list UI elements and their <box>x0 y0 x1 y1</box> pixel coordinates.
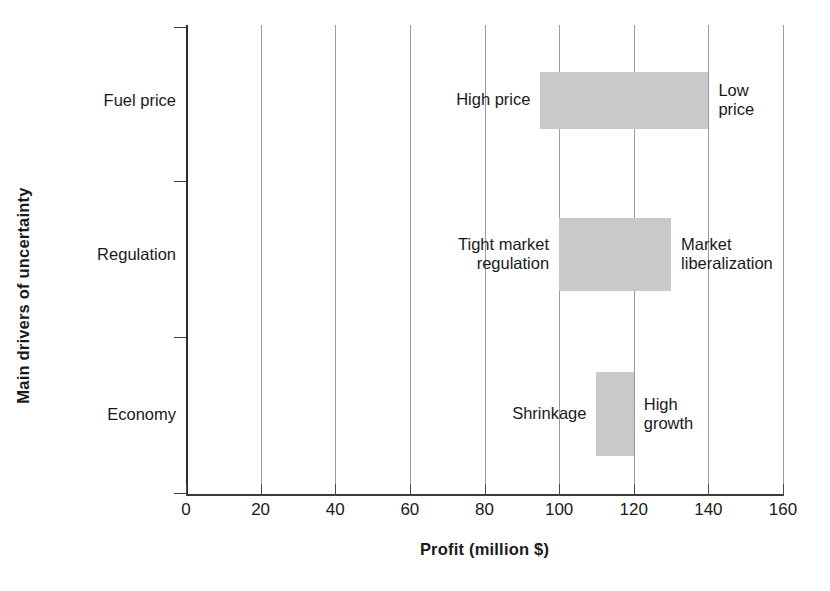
x-tick-80 <box>485 484 486 495</box>
gridline-20 <box>261 25 262 495</box>
tornado-chart: Main drivers of uncertainty Fuel priceRe… <box>0 0 830 591</box>
x-tick-20 <box>261 484 262 495</box>
y-tick-label-economy: Economy <box>6 405 176 424</box>
gridline-160 <box>783 25 784 495</box>
x-tick-140 <box>708 484 709 495</box>
x-tick-label-120: 120 <box>604 500 664 520</box>
bar-label-low-regulation: Tight market regulation <box>458 235 549 274</box>
x-tick-160 <box>783 484 784 495</box>
bar-label-high-regulation: Market liberalization <box>681 235 773 274</box>
x-tick-label-80: 80 <box>455 500 515 520</box>
x-tick-label-160: 160 <box>753 500 813 520</box>
x-tick-label-60: 60 <box>380 500 440 520</box>
x-tick-label-0: 0 <box>156 500 216 520</box>
y-tick-label-fuel-price: Fuel price <box>6 91 176 110</box>
bar-fuel-price <box>540 72 708 129</box>
bar-label-high-fuel-price: Low price <box>718 81 754 120</box>
x-tick-0 <box>186 484 187 495</box>
x-tick-label-20: 20 <box>231 500 291 520</box>
bar-label-low-economy: Shrinkage <box>512 404 586 423</box>
x-tick-label-40: 40 <box>305 500 365 520</box>
bar-label-low-fuel-price: High price <box>456 90 530 109</box>
gridline-60 <box>410 25 411 495</box>
x-tick-label-140: 140 <box>678 500 738 520</box>
y-tick-label-regulation: Regulation <box>6 245 176 264</box>
bar-economy <box>596 372 633 456</box>
x-tick-label-100: 100 <box>529 500 589 520</box>
bar-label-high-economy: High growth <box>644 395 694 434</box>
y-axis-category-labels: Fuel priceRegulationEconomy <box>0 0 176 591</box>
bar-regulation <box>559 218 671 291</box>
x-tick-40 <box>335 484 336 495</box>
x-tick-100 <box>559 484 560 495</box>
x-tick-120 <box>634 484 635 495</box>
gridline-40 <box>335 25 336 495</box>
x-tick-60 <box>410 484 411 495</box>
x-axis-title: Profit (million $) <box>186 540 783 559</box>
